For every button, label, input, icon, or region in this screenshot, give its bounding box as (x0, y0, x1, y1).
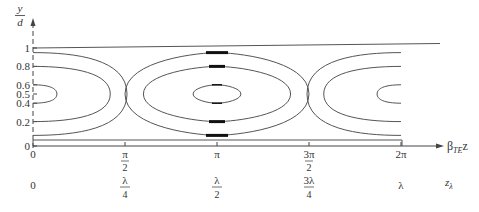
z-tick-label-den: 2 (215, 189, 220, 200)
field-line-center-middle (143, 66, 290, 121)
y-tick-label: 1 (25, 42, 31, 54)
field-line-right-outer (307, 53, 401, 136)
x-tick-label: 0 (30, 148, 36, 160)
x-tick-label: 3π (303, 148, 315, 160)
y-axis-arrow-icon (31, 18, 36, 26)
y-axis-label-num: y (17, 2, 23, 14)
x-tick-label: 2π (395, 148, 407, 160)
field-line-left-middle (33, 66, 110, 121)
z-tick-label: λ (398, 179, 404, 191)
x-axis-label-main: βTEz (447, 139, 468, 155)
field-line-left-outer (33, 53, 127, 136)
z-tick-label: λ (214, 174, 220, 186)
x-tick-label-den: 2 (123, 162, 128, 173)
z-tick-label: 3λ (304, 174, 316, 186)
field-line-right-inner (377, 85, 401, 103)
z-tick-label: 0 (30, 179, 36, 191)
z-tick-label: λ (122, 174, 128, 186)
y-tick-label: 0.2 (16, 116, 30, 128)
z-axis-label: zλ (444, 176, 453, 191)
field-line-center-inner (193, 85, 241, 103)
field-line-diagram: y d 00.20.40.50.60.81 0π2π3π22π0λ4λ23λ4λ… (0, 0, 479, 212)
field-line-right-middle (324, 66, 401, 121)
x-axis-arrow-icon (436, 144, 444, 149)
x-tick-label: π (122, 148, 128, 160)
y-axis-label-den: d (17, 16, 23, 28)
z-tick-label-den: 4 (307, 189, 312, 200)
z-tick-label-den: 4 (123, 189, 128, 200)
top-plate (33, 44, 440, 49)
y-tick-label: 0.8 (16, 60, 30, 72)
x-tick-label-den: 2 (307, 162, 312, 173)
x-tick-label: π (214, 148, 220, 160)
y-tick-label: 0.6 (16, 79, 30, 91)
